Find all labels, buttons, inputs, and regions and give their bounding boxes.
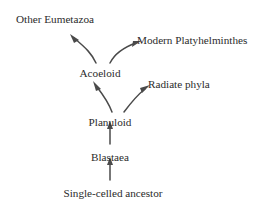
node-blastaea: Blastaea: [91, 152, 129, 163]
edge-planuloid-to-radiate-phyla: [124, 85, 150, 112]
arrow-layer: [0, 0, 269, 211]
node-modern-platyhelminthes: Modern Platyhelminthes: [137, 35, 247, 46]
node-planuloid: Planuloid: [89, 117, 132, 128]
node-other-eumetazoa: Other Eumetazoa: [16, 14, 94, 25]
node-acoeloid: Acoeloid: [79, 68, 120, 79]
edge-planuloid-to-acoeloid: [93, 81, 112, 112]
evolutionary-lineage-diagram: Other Eumetazoa Modern Platyhelminthes A…: [0, 0, 269, 211]
edge-acoeloid-to-other-eumetazoa: [70, 34, 96, 63]
node-radiate-phyla: Radiate phyla: [148, 79, 210, 90]
node-single-celled-ancestor: Single-celled ancestor: [63, 188, 162, 199]
